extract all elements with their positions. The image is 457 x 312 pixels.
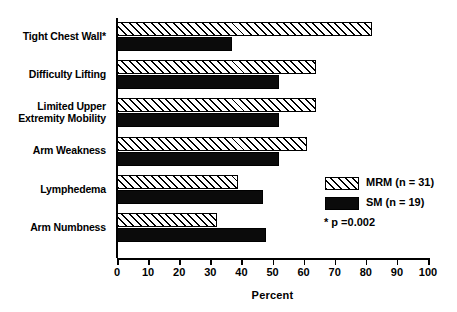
x-tick-80 <box>366 258 368 265</box>
bar-mrm-0 <box>117 22 372 36</box>
bar-mrm-4 <box>117 175 238 189</box>
x-tick-50 <box>273 258 275 265</box>
x-tick-90 <box>397 258 399 265</box>
solid-black-swatch-icon <box>325 197 359 210</box>
x-tick-70 <box>335 258 337 265</box>
bar-mrm-5 <box>117 213 217 227</box>
hatched-swatch-icon <box>325 177 359 190</box>
bar-sm-1 <box>117 75 279 89</box>
category-label-1: Difficulty Lifting <box>0 69 106 81</box>
x-tick-40 <box>241 258 243 265</box>
significance-note: * p =0.002 <box>324 216 375 228</box>
x-tick-100 <box>428 258 430 265</box>
x-tick-30 <box>210 258 212 265</box>
x-tick-label-100: 100 <box>408 266 448 278</box>
category-label-0: Tight Chest Wall* <box>0 31 106 43</box>
bar-sm-5 <box>117 228 266 242</box>
legend-label-mrm: MRM (n = 31) <box>366 176 434 188</box>
x-tick-0 <box>117 258 119 265</box>
category-label-5: Arm Numbness <box>0 222 106 234</box>
category-label-line: Arm Numbness <box>0 222 106 234</box>
bar-mrm-3 <box>117 137 307 151</box>
x-axis: Percent 0102030405060708090100 <box>117 258 428 312</box>
category-label-2: Limited UpperExtremity Mobility <box>0 101 106 124</box>
bar-sm-2 <box>117 113 279 127</box>
legend-label-sm: SM (n = 19) <box>366 196 424 208</box>
bar-sm-3 <box>117 152 279 166</box>
category-label-line: Tight Chest Wall* <box>0 31 106 43</box>
category-label-line: Lymphedema <box>0 184 106 196</box>
chart-legend: MRM (n = 31) SM (n = 19) * p =0.002 <box>318 176 457 232</box>
x-tick-60 <box>304 258 306 265</box>
x-tick-20 <box>179 258 181 265</box>
bar-mrm-1 <box>117 60 316 74</box>
category-label-line: Extremity Mobility <box>0 113 106 125</box>
category-label-4: Lymphedema <box>0 184 106 196</box>
x-tick-10 <box>148 258 150 265</box>
bar-mrm-2 <box>117 98 316 112</box>
category-label-line: Arm Weakness <box>0 145 106 157</box>
bar-sm-0 <box>117 37 232 51</box>
bar-sm-4 <box>117 190 263 204</box>
category-label-3: Arm Weakness <box>0 145 106 157</box>
category-axis-labels: Tight Chest Wall*Difficulty LiftingLimit… <box>0 0 110 312</box>
category-label-line: Difficulty Lifting <box>0 69 106 81</box>
bar-chart: Tight Chest Wall*Difficulty LiftingLimit… <box>0 0 457 312</box>
x-axis-title: Percent <box>117 289 428 301</box>
